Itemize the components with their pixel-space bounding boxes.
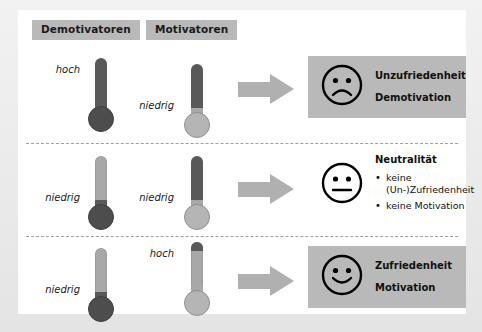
outcome-line-1: Zufriedenheit xyxy=(375,260,452,271)
thermometer-motivator-row2 xyxy=(180,156,214,238)
thermometer-bulb xyxy=(184,112,210,138)
thermometer-label-motivator-row1: niedrig xyxy=(126,100,174,111)
outcome-text-dissatisfaction: Unzufriedenheit Demotivation xyxy=(375,69,466,105)
outcome-heading-neutrality: Neutralität xyxy=(375,153,474,168)
list-item: keine Motivation xyxy=(375,200,474,212)
outcome-line-1: Unzufriedenheit xyxy=(375,70,466,81)
thermometer-bulb xyxy=(184,204,210,230)
arrow-head xyxy=(270,174,294,204)
thermometer-label-demotivator-row2: niedrig xyxy=(32,192,80,203)
row-neutrality: niedrig niedrig xyxy=(18,146,466,238)
happy-face-icon xyxy=(320,253,364,301)
arrow-shaft xyxy=(238,182,272,197)
row-dissatisfaction: hoch niedrig xyxy=(18,52,466,144)
thermometer-bulb xyxy=(88,106,114,132)
neutral-face-icon xyxy=(320,161,364,209)
row-satisfaction: niedrig hoch xyxy=(18,238,466,330)
thermometer-demotivator-row3 xyxy=(84,248,118,330)
page-background: Demotivatoren Motivatoren hoch niedrig xyxy=(0,0,482,332)
thermometer-label-demotivator-row3: niedrig xyxy=(32,284,80,295)
outcome-text-neutrality: Neutralität keine (Un-)Zufriedenheit kei… xyxy=(375,153,474,217)
outcome-panel-dissatisfaction: Unzufriedenheit Demotivation xyxy=(308,56,466,118)
thermometer-label-motivator-row2: niedrig xyxy=(126,192,174,203)
thermometer-label-motivator-row3: hoch xyxy=(138,248,174,259)
arrow-right-icon-row2 xyxy=(238,174,294,204)
column-header-demotivatoren: Demotivatoren xyxy=(32,20,140,40)
outcome-panel-satisfaction: Zufriedenheit Motivation xyxy=(308,246,466,308)
arrow-shaft xyxy=(238,274,272,289)
arrow-head xyxy=(270,74,294,104)
thermometer-label-demotivator-row1: hoch xyxy=(40,64,80,75)
thermometer-demotivator-row1 xyxy=(84,58,118,140)
diagram-card: Demotivatoren Motivatoren hoch niedrig xyxy=(18,10,466,314)
sad-face-icon xyxy=(320,63,364,111)
thermometer-motivator-row3 xyxy=(180,242,214,324)
outcome-text-satisfaction: Zufriedenheit Motivation xyxy=(375,259,466,295)
arrow-right-icon-row1 xyxy=(238,74,294,104)
thermometer-demotivator-row2 xyxy=(84,156,118,238)
outcome-panel-neutrality: Neutralität keine (Un-)Zufriedenheit kei… xyxy=(308,154,466,216)
arrow-head xyxy=(270,266,294,296)
arrow-right-icon-row3 xyxy=(238,266,294,296)
thermometer-motivator-row1 xyxy=(180,64,214,146)
thermometer-tip xyxy=(191,242,203,251)
list-item: keine (Un-)Zufriedenheit xyxy=(375,172,474,197)
thermometer-bulb xyxy=(88,296,114,322)
thermometer-bulb xyxy=(184,290,210,316)
outcome-bullet-list: keine (Un-)Zufriedenheit keine Motivatio… xyxy=(375,172,474,213)
outcome-line-2: Motivation xyxy=(375,281,466,296)
arrow-shaft xyxy=(238,82,272,97)
outcome-line-2: Demotivation xyxy=(375,91,466,106)
column-header-motivatoren: Motivatoren xyxy=(146,20,237,40)
thermometer-bulb xyxy=(88,204,114,230)
